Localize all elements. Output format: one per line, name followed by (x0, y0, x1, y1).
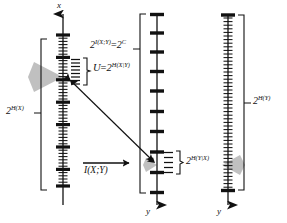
left-axis-group (56, 14, 70, 205)
bracket-h-of-x (41, 39, 47, 190)
u-dashed-ticks (71, 60, 80, 85)
hyx-curly-brace (176, 151, 183, 174)
middle-axis-group (150, 14, 164, 205)
u-symbol: U (93, 62, 101, 73)
label-2-pow-h-of-x: 2H(X) (6, 106, 24, 116)
diagonal-mapping-arrow (70, 80, 155, 163)
hyx-cluster-group (164, 151, 183, 174)
right-axis-group (221, 14, 235, 205)
hyx-exponent: H(Y|X) (191, 154, 209, 161)
h-of-y-exponent: H(Y) (258, 94, 270, 101)
label-2-pow-h-y-given-x: 2H(Y|X) (186, 156, 209, 166)
fan-left-axis (28, 62, 63, 92)
label-u-equals-2-pow-h-x-given-y: U=2H(X|Y) (93, 63, 130, 74)
axis-label-x: x (57, 1, 61, 10)
information-theory-diagram: x y y 2H(X) 2I(X;Y)=2C U=2H(X|Y) 2H(Y|X)… (0, 0, 287, 223)
label-2-pow-i-xy-equals-2-pow-c: 2I(X;Y)=2C (90, 40, 126, 50)
u-curly-brace (83, 58, 90, 85)
diagram-canvas (0, 0, 287, 223)
u-exponent: H(X|Y) (112, 61, 130, 68)
h-of-x-exponent: H(X) (11, 104, 24, 111)
axis-label-y-right: y (217, 207, 221, 216)
label-mutual-information: I(X;Y) (84, 166, 108, 176)
axis-label-y-middle: y (146, 207, 150, 216)
i-xy-exponent: I(X;Y) (95, 38, 111, 45)
brackets-group (41, 14, 244, 193)
hyx-dashed-ticks (164, 153, 173, 173)
label-2-pow-h-of-y: 2H(Y) (253, 96, 270, 106)
c-exponent: C (122, 38, 126, 45)
